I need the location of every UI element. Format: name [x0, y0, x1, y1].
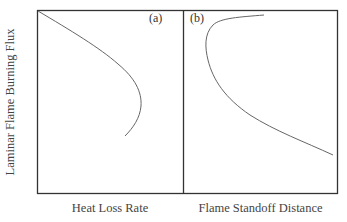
figure: [0, 0, 347, 222]
panel-b-tag: (b): [190, 11, 204, 26]
y-axis-label-text: Laminar Flame Burning Flux: [3, 29, 18, 176]
x-axis-label-a: Heat Loss Rate: [37, 201, 183, 216]
y-axis-label: Laminar Flame Burning Flux: [0, 10, 20, 194]
curve-a: [38, 11, 141, 136]
panel-a-tag: (a): [149, 11, 162, 26]
x-axis-label-b: Flame Standoff Distance: [183, 201, 338, 216]
curve-b: [206, 15, 333, 155]
